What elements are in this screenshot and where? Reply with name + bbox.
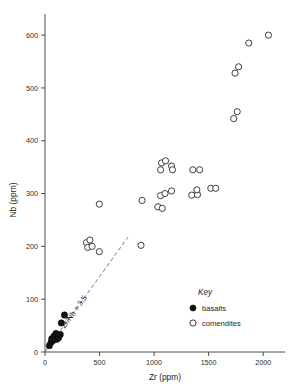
- y-tick-label: 600: [26, 31, 38, 40]
- series-comendites-points: [83, 32, 271, 255]
- data-point-basalt: [61, 312, 67, 318]
- data-point-comendite: [162, 190, 168, 196]
- plot-canvas: 0100200300400500600 0500100015002000 Nb …: [0, 0, 297, 387]
- x-tick-label: 500: [94, 358, 106, 367]
- y-axis-title: Nb (ppm): [8, 182, 18, 217]
- data-point-comendite: [89, 243, 95, 249]
- data-point-comendite: [168, 188, 174, 194]
- y-axis-ticks: 0100200300400500600: [26, 31, 45, 357]
- data-point-comendite: [213, 185, 219, 191]
- scatter-plot-figure: 0100200300400500600 0500100015002000 Nb …: [0, 0, 297, 387]
- y-tick-label: 0: [34, 348, 38, 357]
- data-point-comendite: [236, 64, 242, 70]
- y-tick-label: 300: [26, 189, 38, 198]
- data-point-comendite: [231, 115, 237, 121]
- data-point-basalt: [57, 331, 63, 337]
- x-tick-label: 1500: [201, 358, 217, 367]
- data-point-comendite: [162, 158, 168, 164]
- x-tick-label: 2000: [255, 358, 271, 367]
- y-tick-label: 200: [26, 242, 38, 251]
- data-point-comendite: [194, 187, 200, 193]
- data-point-comendite: [246, 40, 252, 46]
- data-point-comendite: [190, 167, 196, 173]
- series-basalts-points: [46, 312, 67, 349]
- data-point-comendite: [232, 70, 238, 76]
- x-axis-ticks: 0500100015002000: [43, 352, 271, 367]
- x-tick-label: 1000: [146, 358, 162, 367]
- data-point-comendite: [234, 109, 240, 115]
- data-point-comendite: [189, 192, 195, 198]
- data-point-comendite: [96, 249, 102, 255]
- legend: Key basalts comendites: [190, 288, 241, 328]
- legend-label-basalts: basalts: [202, 304, 226, 313]
- y-tick-label: 400: [26, 136, 38, 145]
- data-point-comendite: [169, 167, 175, 173]
- y-tick-label: 100: [26, 295, 38, 304]
- data-point-comendite: [265, 32, 271, 38]
- legend-title: Key: [198, 288, 213, 297]
- legend-marker-basalts: [190, 305, 196, 311]
- data-point-comendite: [96, 201, 102, 207]
- x-tick-label: 0: [43, 358, 47, 367]
- data-point-comendite: [158, 167, 164, 173]
- legend-marker-comendites: [190, 320, 196, 326]
- data-point-basalt: [58, 320, 64, 326]
- y-tick-label: 500: [26, 84, 38, 93]
- data-point-comendite: [159, 205, 165, 211]
- data-point-comendite: [197, 167, 203, 173]
- legend-label-comendites: comendites: [202, 319, 241, 328]
- x-axis-title: Zr (ppm): [149, 372, 181, 382]
- data-point-comendite: [138, 242, 144, 248]
- data-point-comendite: [139, 197, 145, 203]
- data-point-comendite: [87, 237, 93, 243]
